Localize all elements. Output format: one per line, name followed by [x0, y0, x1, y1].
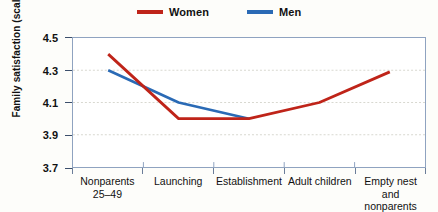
- x-tick-mark-3: [284, 168, 285, 174]
- y-tick-mark-4-3: [65, 70, 72, 71]
- x-axis-category-labels: Nonparents 25–49 Launching Establishment…: [72, 175, 426, 209]
- y-tick-label-4-1: 4.1: [28, 98, 58, 108]
- x-category-adult-children: Adult children: [284, 175, 355, 209]
- x-tick-mark-2: [213, 168, 214, 174]
- legend-item-women: Women: [137, 4, 209, 20]
- plot-svg: [73, 38, 425, 167]
- legend-label-women: Women: [169, 4, 209, 20]
- y-tick-mark-3-9: [65, 135, 72, 136]
- x-category-line: Establishment: [215, 175, 284, 188]
- series-line-women: [108, 54, 390, 119]
- y-tick-label-4-3: 4.3: [28, 66, 58, 76]
- x-category-launching: Launching: [143, 175, 214, 209]
- chart-legend: Women Men: [0, 4, 438, 22]
- legend-swatch-men: [247, 10, 273, 14]
- family-satisfaction-line-chart: Women Men Family satisfaction (scale 1–5…: [0, 0, 438, 212]
- x-category-line: Launching: [144, 175, 213, 188]
- y-axis-title: Family satisfaction (scale 1–5): [9, 0, 23, 110]
- legend-label-men: Men: [279, 4, 301, 20]
- x-category-nonparents-25-49: Nonparents 25–49: [72, 175, 143, 209]
- x-tick-mark-0: [72, 168, 73, 174]
- legend-swatch-women: [137, 10, 163, 14]
- x-category-line: Empty nest and: [356, 175, 425, 200]
- x-category-empty-nest-nonparents-50plus: Empty nest and nonparents 50+: [355, 175, 426, 209]
- y-tick-label-4-5: 4.5: [28, 33, 58, 43]
- x-tick-mark-5: [425, 168, 426, 174]
- x-category-establishment: Establishment: [214, 175, 285, 209]
- x-category-line: nonparents 50+: [356, 200, 425, 212]
- x-tick-mark-4: [355, 168, 356, 174]
- y-tick-mark-4-1: [65, 102, 72, 103]
- x-tick-mark-1: [142, 168, 143, 174]
- category-dividers: [143, 162, 354, 167]
- y-tick-label-3-9: 3.9: [28, 130, 58, 140]
- y-tick-mark-3-7: [65, 168, 72, 169]
- series-line-men: [108, 70, 249, 118]
- x-category-line: 25–49: [73, 188, 142, 201]
- legend-item-men: Men: [247, 4, 301, 20]
- y-tick-mark-4-5: [65, 37, 72, 38]
- y-tick-label-3-7: 3.7: [28, 163, 58, 173]
- plot-area: [72, 37, 426, 168]
- x-category-line: Nonparents: [73, 175, 142, 188]
- x-category-line: Adult children: [285, 175, 354, 188]
